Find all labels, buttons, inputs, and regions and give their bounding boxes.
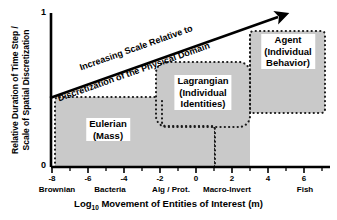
x-category-label-fish: Fish: [297, 185, 313, 194]
region-label-lagrangian-line3: Identities): [181, 98, 226, 109]
x-axis-title-subscript: 10: [92, 204, 99, 211]
x-axis-title: Log10 Movement of Entities of Interest (…: [0, 198, 337, 211]
region-label-agent: Agent (Individual Behavior): [261, 34, 315, 69]
region-label-eulerian-line2: (Mass): [93, 130, 123, 141]
x-category-label-brownian: Brownian: [39, 185, 75, 194]
region-label-agent-line2: (Individual: [264, 46, 312, 57]
x-tick-label-6: 4: [266, 174, 270, 183]
x-tick-label-7: 6: [302, 174, 306, 183]
region-label-agent-line3: Behavior): [266, 57, 310, 68]
region-label-lagrangian: Lagrangian (Individual Identities): [174, 75, 231, 110]
scale-diagram-figure: Relative Duration of Time Step / Scale o…: [0, 0, 337, 220]
x-tick-label-5: 2: [230, 174, 234, 183]
x-tick-label-4: 0: [194, 174, 198, 183]
x-axis-title-prefix: Log: [74, 198, 91, 209]
region-label-eulerian: Eulerian (Mass): [86, 118, 130, 141]
x-tick-label-0: -8: [48, 174, 55, 183]
region-label-lagrangian-line1: Lagrangian: [177, 75, 228, 86]
region-label-eulerian-line1: Eulerian: [89, 118, 127, 129]
x-tick-label-2: -4: [120, 174, 127, 183]
x-axis-title-rest: Movement of Entities of Interest (m): [99, 198, 263, 209]
x-category-label-alg-prot: Alg / Prot.: [152, 185, 190, 194]
x-category-label-bacteria: Bacteria: [94, 185, 126, 194]
region-label-agent-line1: Agent: [275, 34, 302, 45]
x-tick-label-1: -6: [84, 174, 91, 183]
x-category-label-macro-invert: Macro-Invert: [203, 185, 251, 194]
region-label-lagrangian-line2: (Individual: [179, 87, 227, 98]
x-tick-label-3: -2: [156, 174, 163, 183]
